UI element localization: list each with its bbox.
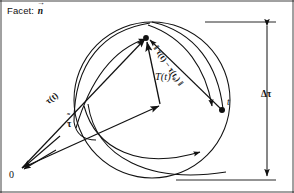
- delta-tau-label: Δτ: [261, 90, 271, 100]
- vector-tau-of-t: [22, 39, 145, 168]
- sphere-outline: [74, 22, 230, 178]
- tau-tilde-label: τ: [67, 120, 71, 130]
- tau-tilde-symbol: τ: [67, 119, 71, 129]
- point-t-label: t: [227, 98, 230, 108]
- point-t-marker: [219, 107, 225, 113]
- facet-label: Facet: n: [7, 6, 43, 17]
- tangent-T-label: T(t): [155, 72, 171, 83]
- node-top-marker: [143, 35, 149, 41]
- origin-label: 0: [9, 170, 14, 180]
- arrow-into-origin-upper: [24, 136, 60, 167]
- arc-upper-left-boundary: [74, 23, 150, 122]
- figure-container: Facet: n Δτ τ(t) τ ‖ τ(t) − τ(t₀) ‖ T(t)…: [0, 0, 294, 193]
- facet-label-text: Facet:: [7, 5, 34, 16]
- facet-normal-symbol: n: [37, 6, 43, 16]
